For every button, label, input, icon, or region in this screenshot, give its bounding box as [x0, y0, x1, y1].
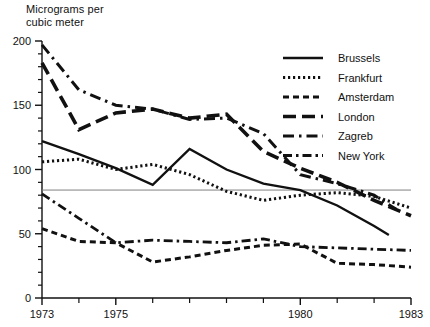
y-tick-label: 150: [13, 99, 31, 111]
y-tick-label: 100: [13, 164, 31, 176]
legend-label-zagreb: Zagreb: [338, 130, 373, 142]
legend-label-frankfurt: Frankfurt: [338, 72, 382, 84]
line-chart-plot: 050100150200 1973197519801983 BrusselsFr…: [0, 0, 430, 327]
legend-label-london: London: [338, 111, 375, 123]
chart-container: Micrograms per cubic meter 050100150200 …: [0, 0, 430, 327]
series-line-brussels: [42, 141, 389, 235]
y-axis-ticks: [35, 41, 42, 298]
series-line-amsterdam: [42, 229, 411, 268]
x-axis-ticks: [42, 298, 411, 305]
x-tick-label: 1973: [30, 308, 54, 320]
y-tick-label: 200: [13, 35, 31, 47]
legend-label-brussels: Brussels: [338, 52, 381, 64]
legend-label-new-york: New York: [338, 150, 385, 162]
y-axis-tick-labels: 050100150200: [13, 35, 31, 304]
x-tick-label: 1983: [399, 308, 423, 320]
chart-legend: BrusselsFrankfurtAmsterdamLondonZagrebNe…: [283, 52, 394, 162]
x-axis-tick-labels: 1973197519801983: [30, 308, 423, 320]
x-tick-label: 1980: [288, 308, 312, 320]
x-tick-label: 1975: [104, 308, 128, 320]
series-line-frankfurt: [42, 159, 411, 208]
legend-label-amsterdam: Amsterdam: [338, 91, 394, 103]
series-line-new-york: [42, 194, 411, 251]
y-tick-label: 0: [25, 292, 31, 304]
y-tick-label: 50: [19, 228, 31, 240]
